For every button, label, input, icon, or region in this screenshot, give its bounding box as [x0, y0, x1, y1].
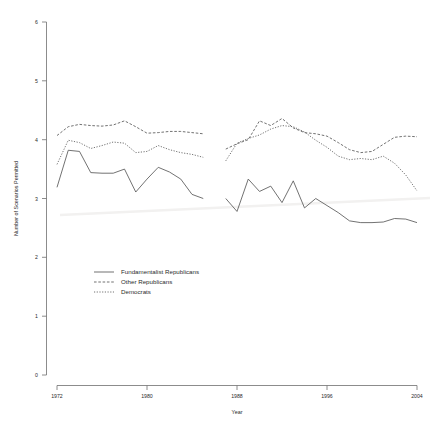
series-other-republicans-segment-1 — [57, 121, 203, 136]
chart-legend: Fundamentalist Republicans Other Republi… — [94, 268, 199, 295]
y-tick-label-3: 3 — [35, 196, 38, 202]
legend-label-democrats: Democrats — [121, 288, 151, 295]
y-tick-label-0: 0 — [35, 372, 38, 378]
x-tick-label-1980: 1980 — [141, 393, 153, 399]
y-tick-label-2: 2 — [35, 254, 38, 260]
y-axis: 6 5 4 3 2 1 0 Number of Scenarios Permit… — [13, 19, 47, 378]
y-tick-label-6: 6 — [35, 19, 38, 25]
page-smudge — [60, 198, 430, 215]
series-democrats-segment-2 — [226, 126, 417, 191]
legend-label-fundamentalist-republicans: Fundamentalist Republicans — [121, 268, 199, 275]
y-tick-label-1: 1 — [35, 313, 38, 319]
x-tick-label-2004: 2004 — [411, 393, 423, 399]
x-tick-label-1996: 1996 — [321, 393, 333, 399]
line-chart: 6 5 4 3 2 1 0 Number of Scenarios Permit… — [0, 0, 433, 426]
series-other-republicans-segment-2 — [226, 118, 417, 152]
x-axis-title: Year — [232, 409, 243, 415]
y-tick-label-5: 5 — [35, 78, 38, 84]
y-axis-title: Number of Scenarios Permitted — [13, 161, 19, 236]
x-axis: 1972 1980 1988 1996 2004 Year — [51, 386, 423, 416]
x-tick-label-1972: 1972 — [51, 393, 63, 399]
x-tick-label-1988: 1988 — [231, 393, 243, 399]
chart-page: 6 5 4 3 2 1 0 Number of Scenarios Permit… — [0, 0, 433, 426]
series-fundamentalist-republicans-segment-1 — [57, 150, 203, 198]
y-tick-label-4: 4 — [35, 137, 38, 143]
legend-label-other-republicans: Other Republicans — [121, 278, 172, 285]
series-democrats-segment-1 — [57, 140, 203, 164]
